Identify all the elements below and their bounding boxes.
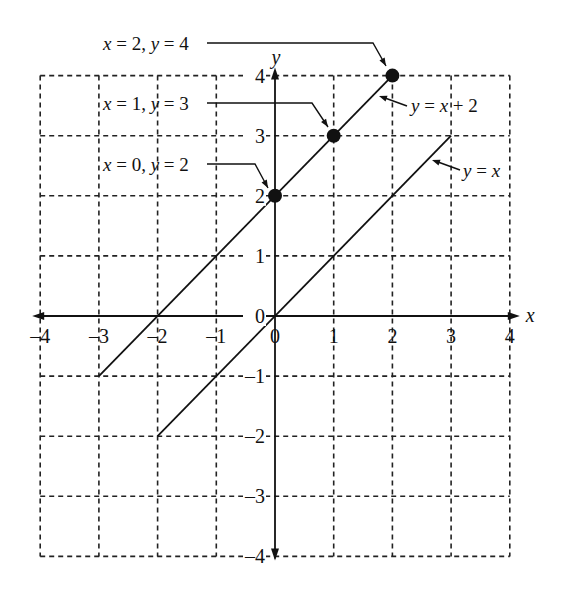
callout-arrow-icon [379,58,386,66]
y-tick-label: 0 [255,305,265,327]
callout-line [438,162,460,170]
y-axis-down-arrow-icon [271,548,279,560]
axes: xy [32,46,535,561]
x-tick-label: 2 [387,325,397,347]
callout-line [207,103,328,127]
x-axis-label: x [525,304,535,326]
callout-arrow-icon [379,96,388,102]
data-point [385,69,399,83]
callout-arrow-icon [321,119,328,127]
x-tick-label: 1 [329,325,339,347]
y-tick-label: –4 [244,545,265,567]
coordinate-plane-figure: xy –4–3–2–101234–4–3–2–101234 x = 2, y =… [0,0,564,592]
x-tick-label: –1 [205,325,226,347]
y-axis-up-arrow-icon [271,68,279,80]
data-point [268,189,282,203]
x-tick-label: –4 [29,325,50,347]
annotation-label: y = x [461,160,501,181]
annotation-label: x = 2, y = 4 [102,33,189,54]
y-tick-label: 2 [255,185,265,207]
annotation-label: x = 1, y = 3 [102,93,189,114]
y-axis-label: y [270,46,281,69]
series-line [158,136,452,437]
y-tick-label: 4 [255,65,265,87]
annotation-label: y = x + 2 [409,95,478,116]
y-tick-label: –3 [244,485,265,507]
y-tick-label: 1 [255,245,265,267]
x-tick-label: –2 [147,325,168,347]
annotation-label: x = 0, y = 2 [102,154,189,175]
x-tick-label: 3 [446,325,456,347]
x-axis-right-arrow-icon [508,312,520,320]
x-tick-label: 0 [270,325,280,347]
x-tick-label: –3 [88,325,109,347]
data-point [327,129,341,143]
series-line [99,76,393,377]
y-tick-label: –2 [244,425,265,447]
y-tick-label: 3 [255,125,265,147]
callout-arrow-icon [432,160,441,166]
callout-line [207,43,386,66]
x-tick-label: 4 [505,325,515,347]
y-tick-label: –1 [244,365,265,387]
annotations: x = 2, y = 4x = 1, y = 3x = 0, y = 2y = … [102,33,501,188]
x-axis-left-arrow-icon [32,312,44,320]
callout-line [385,98,407,106]
